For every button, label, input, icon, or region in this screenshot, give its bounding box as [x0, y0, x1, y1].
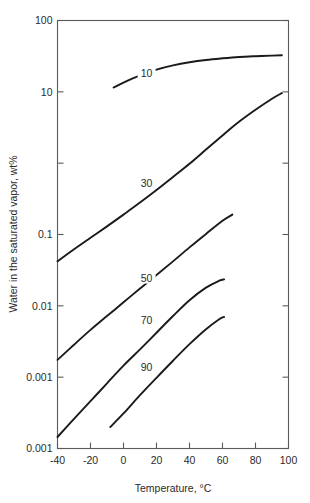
y-tick-label: 0.001: [26, 371, 52, 383]
y-tick-label: 0.001: [26, 442, 52, 454]
curve-labels: 1030507090: [138, 66, 156, 373]
x-tick-label: 0: [121, 454, 127, 466]
x-tick-label: 60: [217, 454, 229, 466]
curve-30: [58, 93, 282, 261]
y-tick-label: 0.1: [38, 228, 53, 240]
curve-label-70: 70: [141, 314, 153, 326]
y-tick-label: 100: [35, 14, 53, 26]
curve-label-50: 50: [141, 272, 153, 284]
water-in-saturated-vapor-chart: 100100.10.010.0010.001 -40-2002040608010…: [0, 0, 310, 503]
x-axis-ticks: -40-20020406080100: [50, 443, 298, 466]
y-tick-label: 0.01: [32, 300, 53, 312]
curve-label-10: 10: [141, 67, 153, 79]
data-curves: [58, 55, 282, 437]
y-axis-title: Water in the saturated vapor, wt%: [7, 155, 19, 312]
x-axis-title: Temperature, °C: [135, 482, 212, 494]
x-tick-label: 40: [184, 454, 196, 466]
curve-label-90: 90: [141, 361, 153, 373]
plot-border: [58, 21, 289, 449]
curve-90: [110, 317, 224, 427]
x-tick-label: 100: [280, 454, 298, 466]
plot-frame: [58, 21, 289, 449]
chart-figure: 100100.10.010.0010.001 -40-2002040608010…: [0, 0, 310, 503]
y-axis-ticks: 100100.10.010.0010.001: [26, 14, 288, 454]
x-tick-label: -40: [50, 454, 65, 466]
x-tick-label: 80: [250, 454, 262, 466]
curve-label-30: 30: [141, 177, 153, 189]
x-tick-label: -20: [83, 454, 98, 466]
curve-70: [58, 279, 225, 437]
y-tick-label: 10: [41, 86, 53, 98]
x-tick-label: 20: [151, 454, 163, 466]
